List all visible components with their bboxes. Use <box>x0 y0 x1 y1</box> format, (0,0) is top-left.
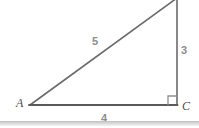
hypotenuse-line <box>30 0 177 105</box>
vertical-side-length-label: 3 <box>181 45 187 56</box>
vertex-label-c: C <box>182 100 190 112</box>
right-angle-marker-icon <box>168 96 177 105</box>
hypotenuse-length-label: 5 <box>92 36 98 47</box>
triangle-drawing <box>0 0 199 128</box>
bottom-divider <box>0 121 199 126</box>
triangle-figure: 5 3 4 A C <box>0 0 199 128</box>
vertex-label-a: A <box>16 97 23 109</box>
